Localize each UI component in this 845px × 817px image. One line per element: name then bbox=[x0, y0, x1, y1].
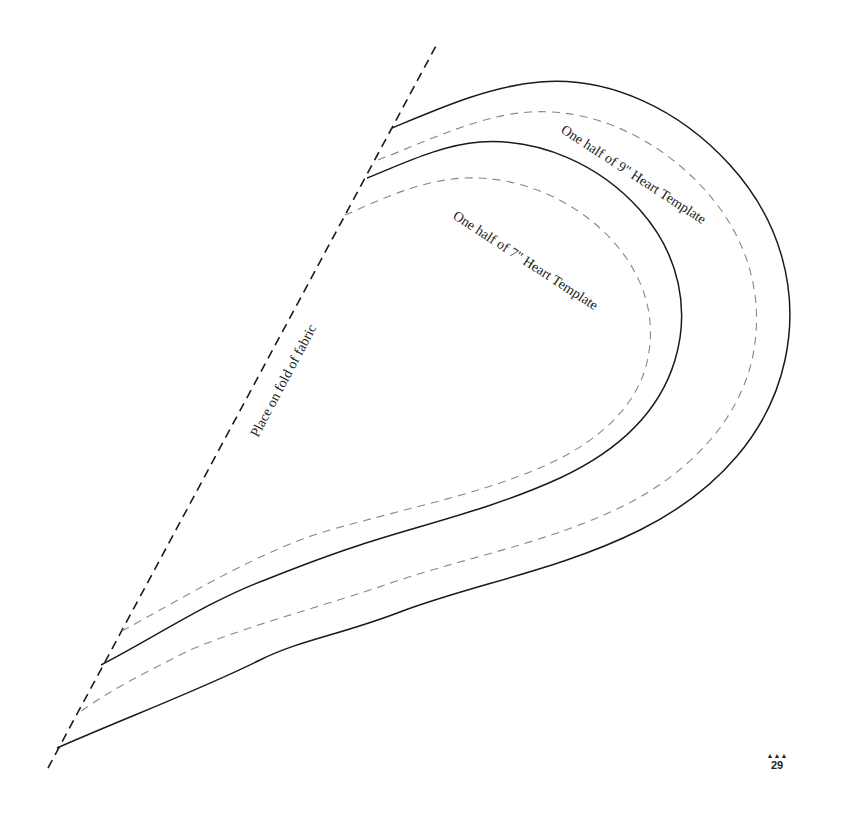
fold-line bbox=[48, 44, 437, 768]
heart-template-drawing: Place on fold of fabric One half of 9" H… bbox=[0, 0, 845, 817]
heart-7-cut-line bbox=[101, 142, 682, 665]
template-9-label: One half of 9" Heart Template bbox=[558, 122, 708, 227]
page-number-block: ▲▲▲ 29 bbox=[762, 752, 792, 771]
heart-7-seam-line bbox=[120, 178, 650, 632]
template-7-label: One half of 7" Heart Template bbox=[450, 208, 600, 313]
heart-9-seam-line bbox=[80, 112, 757, 712]
triangle-ornament-icon: ▲▲▲ bbox=[762, 752, 792, 759]
page-number: 29 bbox=[762, 760, 792, 771]
heart-9-cut-line bbox=[57, 81, 790, 748]
fold-label: Place on fold of fabric bbox=[247, 322, 319, 440]
pattern-page: Place on fold of fabric One half of 9" H… bbox=[0, 0, 845, 817]
